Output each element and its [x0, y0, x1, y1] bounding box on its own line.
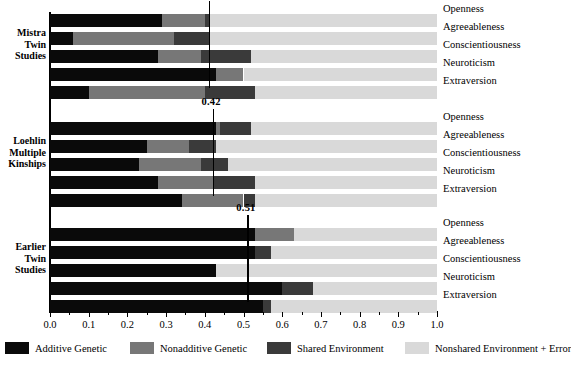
x-tick-label: 0.8 [353, 319, 366, 330]
x-tick [166, 312, 167, 317]
bar-row [50, 282, 437, 295]
legend-swatch [405, 342, 429, 354]
bar-row [50, 50, 437, 63]
bar-segment-additive [50, 158, 139, 171]
legend-label: Additive Genetic [35, 343, 107, 354]
x-tick-minor [108, 312, 109, 315]
bar-segment-shared [201, 158, 228, 171]
bar-segment-shared [220, 122, 251, 135]
bar-row [50, 246, 437, 259]
x-tick-minor [185, 312, 186, 315]
group-label: MistraTwinStudies [0, 27, 46, 62]
bar-segment-nonshared [251, 122, 437, 135]
legend-label: Shared Environment [297, 343, 384, 354]
bar-segment-nonshared [271, 246, 437, 259]
bar-row [50, 140, 437, 153]
bar-segment-nonadditive [216, 68, 243, 81]
bar-row [50, 264, 437, 277]
trait-label-conscientiousness: Conscientiousness [443, 146, 521, 159]
mean-line [247, 215, 249, 302]
group-label-line: Twin [0, 39, 46, 51]
bar-segment-nonadditive [162, 14, 205, 27]
bar-row [50, 86, 437, 99]
x-tick-minor [263, 312, 264, 315]
bar-row [50, 158, 437, 171]
bar-segment-shared [213, 176, 256, 189]
x-tick-label: 0.6 [276, 319, 289, 330]
bar-segment-additive [50, 264, 216, 277]
bar-segment-additive [50, 68, 216, 81]
bar-segment-nonshared [271, 300, 437, 313]
group-label-line: Twin [0, 253, 46, 265]
bar-segment-shared [263, 300, 271, 313]
bar-segment-additive [50, 86, 89, 99]
legend-item: Additive Genetic [5, 341, 107, 355]
bar-segment-nonadditive [147, 140, 190, 153]
legend-swatch [5, 342, 29, 354]
bar-row [50, 228, 437, 241]
x-tick [50, 312, 51, 317]
chart-legend: Additive GeneticNonadditive GeneticShare… [5, 341, 545, 361]
trait-label-openness: Openness [443, 110, 484, 123]
x-tick-label: 0.4 [198, 319, 211, 330]
bar-segment-nonshared [313, 282, 437, 295]
x-tick [127, 312, 128, 317]
legend-item: Nonshared Environment + Error [405, 341, 571, 355]
trait-label-agreeableness: Agreeableness [443, 20, 504, 33]
x-tick-label: 0.0 [43, 319, 56, 330]
x-tick [282, 312, 283, 317]
bar-segment-nonadditive [158, 176, 212, 189]
bar-row [50, 68, 437, 81]
trait-label-extraversion: Extraversion [443, 288, 497, 301]
legend-item: Nonadditive Genetic [130, 341, 247, 355]
legend-swatch [267, 342, 291, 354]
trait-label-conscientiousness: Conscientiousness [443, 252, 521, 265]
x-tick-label: 1.0 [430, 319, 443, 330]
group-label-line: Loehlin [0, 135, 46, 147]
bar-row [50, 14, 437, 27]
bar-segment-nonadditive [255, 228, 294, 241]
bar-segment-nonshared [255, 176, 437, 189]
legend-item: Shared Environment [267, 341, 384, 355]
x-tick-minor [418, 312, 419, 315]
x-tick-label: 0.7 [314, 319, 327, 330]
trait-label-openness: Openness [443, 216, 484, 229]
group-label-line: Mistra [0, 27, 46, 39]
bar-segment-additive [50, 228, 255, 241]
bar-segment-nonshared [216, 264, 437, 277]
x-tick [398, 312, 399, 317]
bar-row [50, 122, 437, 135]
bar-segment-additive [50, 32, 73, 45]
bar-segment-nonshared [209, 32, 437, 45]
bar-segment-nonshared [209, 14, 437, 27]
x-tick [360, 312, 361, 317]
bar-segment-nonshared [294, 228, 437, 241]
legend-swatch [130, 342, 154, 354]
trait-label-conscientiousness: Conscientiousness [443, 38, 521, 51]
trait-label-extraversion: Extraversion [443, 74, 497, 87]
x-tick-label: 0.2 [121, 319, 134, 330]
bar-segment-nonshared [251, 50, 437, 63]
bar-segment-additive [50, 14, 162, 27]
mean-value-label: 0.51 [236, 202, 255, 213]
group-label: LoehlinMultipleKinships [0, 135, 46, 170]
plot-area [50, 12, 437, 310]
bar-segment-nonshared [228, 158, 437, 171]
bar-segment-shared [282, 282, 313, 295]
x-tick-minor [302, 312, 303, 315]
mean-value-label: 0.42 [202, 96, 221, 107]
x-tick [244, 312, 245, 317]
mean-line [213, 109, 215, 196]
bar-segment-nonadditive [139, 158, 201, 171]
x-tick [205, 312, 206, 317]
bar-segment-nonadditive [73, 32, 174, 45]
x-tick-minor [340, 312, 341, 315]
bar-segment-nonshared [255, 194, 437, 207]
group-label-line: Multiple [0, 147, 46, 159]
x-tick-minor [224, 312, 225, 315]
legend-label: Nonshared Environment + Error [435, 343, 571, 354]
group-label: EarlierTwinStudies [0, 241, 46, 276]
x-tick-label: 0.5 [237, 319, 250, 330]
bar-segment-nonshared [244, 68, 438, 81]
